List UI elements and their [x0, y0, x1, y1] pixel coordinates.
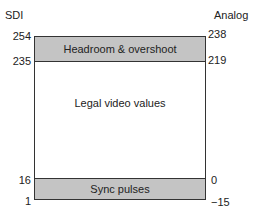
sync-label: Sync pulses — [90, 183, 149, 195]
headroom-region: Headroom & overshoot — [35, 37, 205, 62]
analog-tick-238: 238 — [208, 29, 226, 40]
legal-video-label: Legal video values — [35, 97, 205, 109]
sdi-tick-1: 1 — [1, 196, 31, 207]
video-level-box: Headroom & overshoot Legal video values … — [34, 36, 206, 200]
sdi-header: SDI — [5, 10, 23, 21]
sdi-tick-235: 235 — [1, 56, 31, 67]
analog-tick-minus15: −15 — [211, 197, 230, 208]
sdi-tick-254: 254 — [1, 31, 31, 42]
headroom-label: Headroom & overshoot — [63, 43, 176, 55]
sync-region: Sync pulses — [35, 178, 205, 199]
analog-tick-219: 219 — [208, 55, 226, 66]
analog-header: Analog — [214, 10, 248, 21]
analog-tick-0: 0 — [211, 175, 217, 186]
sdi-tick-16: 16 — [1, 175, 31, 186]
